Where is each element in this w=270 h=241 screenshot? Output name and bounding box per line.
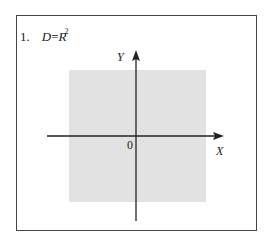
y-axis-label: Y (117, 50, 124, 65)
x-axis-label: X (216, 144, 223, 159)
origin-label: 0 (127, 138, 133, 153)
plane-diagram (0, 0, 270, 241)
